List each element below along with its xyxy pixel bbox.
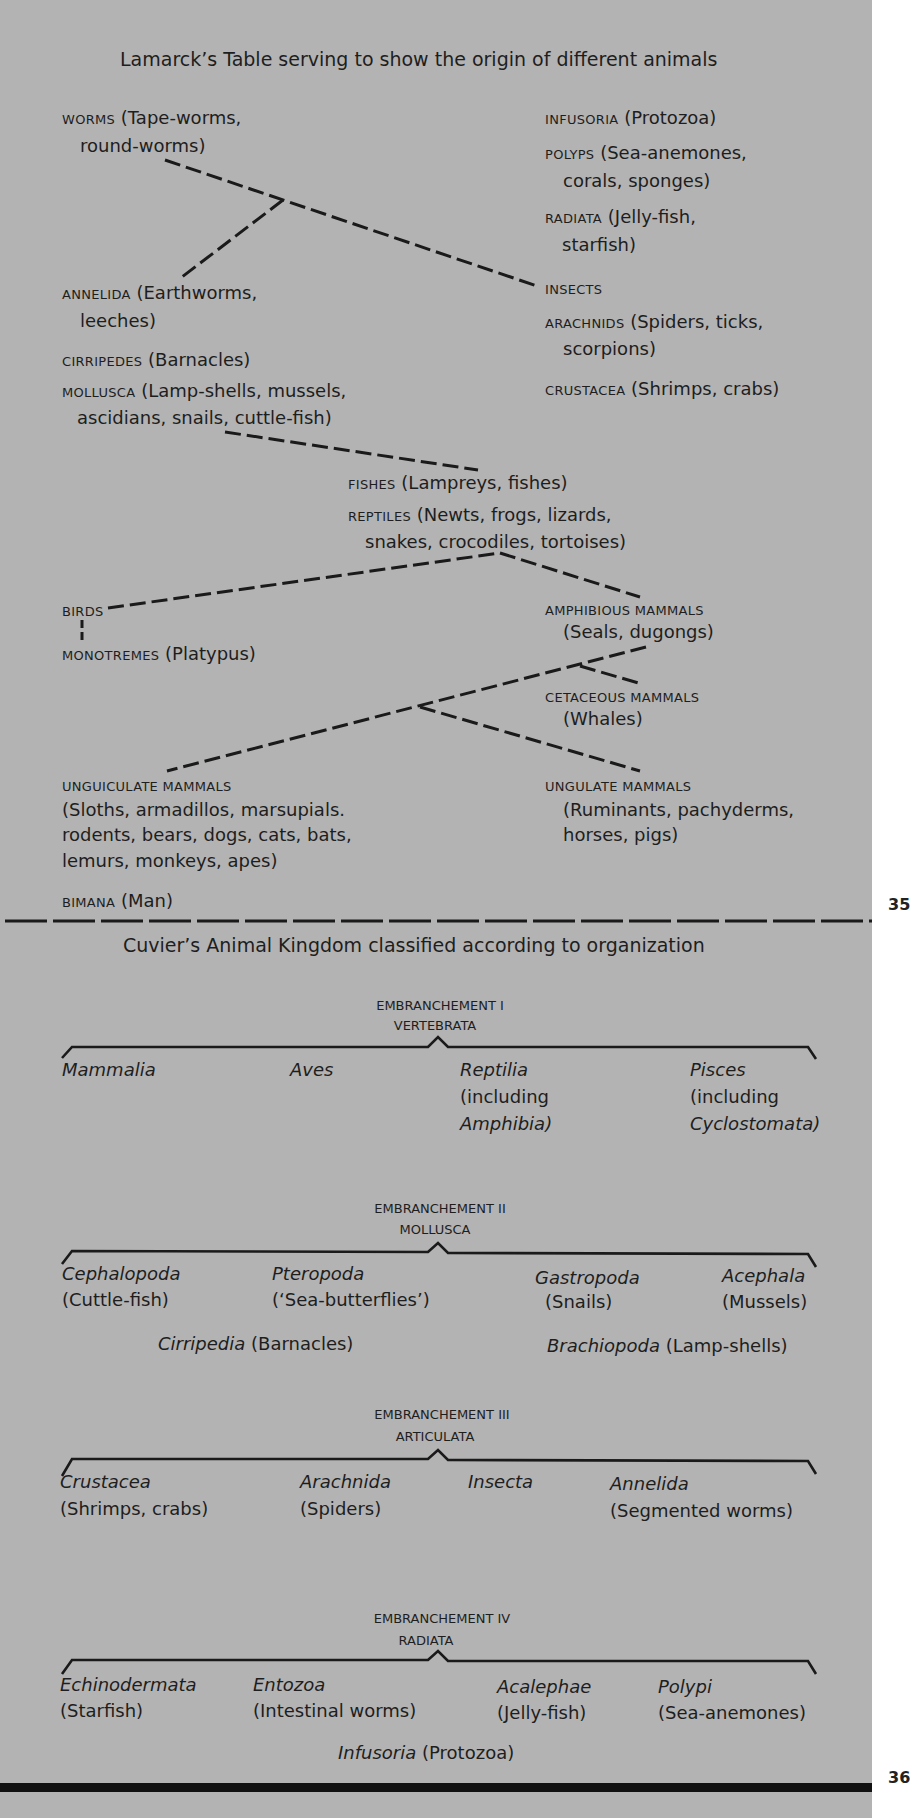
lamarck-reptiles: REPTILES (Newts, frogs, lizards, <box>348 503 612 529</box>
taxon-aves: Aves <box>290 1058 333 1082</box>
lamarck-annelida-desc: leeches) <box>80 309 156 333</box>
lamarck-fishes: FISHES (Lampreys, fishes) <box>348 471 568 497</box>
lamarck-ungulate-desc2: horses, pigs) <box>563 823 678 847</box>
taxon-pteropoda: Pteropoda <box>272 1262 364 1286</box>
taxon-arachnida: Arachnida <box>300 1470 391 1494</box>
emb2-label: EMBRANCHEMENT II <box>330 1199 550 1219</box>
lamarck-unguiculate: UNGUICULATE MAMMALS <box>62 773 232 799</box>
emb4-name: RADIATA <box>316 1631 536 1651</box>
taxon-annelida: Annelida <box>610 1472 689 1496</box>
taxon-echinodermata-note: (Starfish) <box>60 1699 143 1723</box>
page-number-36: 36 <box>888 1768 910 1787</box>
lamarck-worms: WORMS (Tape-worms, <box>62 106 241 132</box>
lamarck-cirripedes: CIRRIPEDES (Barnacles) <box>62 348 250 374</box>
taxon-echinodermata: Echinodermata <box>60 1673 197 1697</box>
emb3-label: EMBRANCHEMENT III <box>332 1405 552 1425</box>
lamarck-unguiculate-desc1: (Sloths, armadillos, marsupials. <box>62 798 345 822</box>
taxon-polypi: Polypi <box>658 1675 712 1699</box>
taxon-reptilia: Reptilia <box>460 1058 528 1082</box>
cuvier-title: Cuvier’s Animal Kingdom classified accor… <box>123 933 705 957</box>
taxon-reptilia-note: (including <box>460 1085 549 1109</box>
taxon-acephala: Acephala <box>722 1264 805 1288</box>
lamarck-unguiculate-desc3: lemurs, monkeys, apes) <box>62 849 277 873</box>
emb1-name: VERTEBRATA <box>325 1016 545 1036</box>
emb4-label: EMBRANCHEMENT IV <box>332 1609 552 1629</box>
taxon-cirripedia: Cirripedia (Barnacles) <box>158 1332 353 1356</box>
taxon-crustacea: Crustacea <box>60 1470 151 1494</box>
emb3-name: ARTICULATA <box>325 1427 545 1447</box>
taxon-annelida-note: (Segmented worms) <box>610 1499 793 1523</box>
taxon-pisces-note2: Cyclostomata) <box>690 1112 820 1136</box>
taxon-pteropoda-note: (‘Sea-butterflies’) <box>272 1288 430 1312</box>
page-number-35: 35 <box>888 895 910 914</box>
taxon-acalephae: Acalephae <box>497 1675 591 1699</box>
taxon-infusoria: Infusoria (Protozoa) <box>338 1741 514 1765</box>
lamarck-annelida: ANNELIDA (Earthworms, <box>62 281 257 307</box>
taxon-pisces-note: (including <box>690 1085 779 1109</box>
taxon-crustacea-note: (Shrimps, crabs) <box>60 1497 208 1521</box>
lamarck-title: Lamarck’s Table serving to show the orig… <box>120 47 717 71</box>
emb2-name: MOLLUSCA <box>325 1220 545 1240</box>
taxon-gastropoda-note: (Snails) <box>545 1290 612 1314</box>
taxon-cephalopoda: Cephalopoda <box>62 1262 180 1286</box>
lamarck-mollusca: MOLLUSCA (Lamp-shells, mussels, <box>62 379 346 405</box>
lamarck-arachnids: ARACHNIDS (Spiders, ticks, <box>545 310 763 336</box>
lamarck-mollusca-desc: ascidians, snails, cuttle-fish) <box>77 406 332 430</box>
taxon-insecta: Insecta <box>468 1470 533 1494</box>
lamarck-polyps: POLYPS (Sea-anemones, <box>545 141 747 167</box>
lamarck-ungulate: UNGULATE MAMMALS <box>545 773 691 799</box>
taxon-brachiopoda: Brachiopoda (Lamp-shells) <box>547 1334 788 1358</box>
lamarck-radiata: RADIATA (Jelly-fish, <box>545 205 696 231</box>
taxon-gastropoda: Gastropoda <box>535 1266 640 1290</box>
taxon-reptilia-note2: Amphibia) <box>460 1112 552 1136</box>
lamarck-radiata-desc: starfish) <box>562 233 636 257</box>
lamarck-crustacea: CRUSTACEA (Shrimps, crabs) <box>545 377 779 403</box>
lamarck-bimana: BIMANA (Man) <box>62 889 173 915</box>
lamarck-arachnids-desc: scorpions) <box>563 337 656 361</box>
emb1-label: EMBRANCHEMENT I <box>330 996 550 1016</box>
taxon-acephala-note: (Mussels) <box>722 1290 807 1314</box>
taxon-pisces: Pisces <box>690 1058 746 1082</box>
lamarck-polyps-desc: corals, sponges) <box>563 169 710 193</box>
lamarck-birds: BIRDS <box>62 598 104 624</box>
lamarck-monotremes: MONOTREMES (Platypus) <box>62 642 256 668</box>
lamarck-worms-desc: round-worms) <box>80 134 206 158</box>
lamarck-unguiculate-desc2: rodents, bears, dogs, cats, bats, <box>62 823 352 847</box>
lamarck-insects: INSECTS <box>545 276 602 302</box>
taxon-cephalopoda-note: (Cuttle-fish) <box>62 1288 169 1312</box>
lamarck-infusoria: INFUSORIA (Protozoa) <box>545 106 716 132</box>
lamarck-reptiles-desc: snakes, crocodiles, tortoises) <box>365 530 626 554</box>
lamarck-ungulate-desc1: (Ruminants, pachyderms, <box>563 798 794 822</box>
lamarck-amphibious-desc: (Seals, dugongs) <box>563 620 714 644</box>
taxon-entozoa-note: (Intestinal worms) <box>253 1699 416 1723</box>
taxon-mammalia: Mammalia <box>62 1058 156 1082</box>
taxon-polypi-note: (Sea-anemones) <box>658 1701 806 1725</box>
taxon-arachnida-note: (Spiders) <box>300 1497 381 1521</box>
taxon-entozoa: Entozoa <box>253 1673 325 1697</box>
taxon-acalephae-note: (Jelly-fish) <box>497 1701 586 1725</box>
lamarck-cetaceous-desc: (Whales) <box>563 707 643 731</box>
